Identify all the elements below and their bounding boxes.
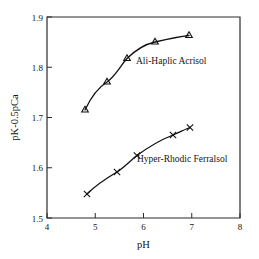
x-tick-label: 7 [190, 222, 195, 232]
y-axis-ticks [47, 17, 52, 218]
y-tick-label: 1.5 [32, 214, 44, 224]
axes-frame [47, 17, 240, 218]
series-label-ferralsol: Hyper-Rhodic Ferralsol [137, 154, 228, 164]
data-point-marker [114, 169, 120, 175]
data-point-marker [187, 124, 193, 130]
series-ali-haplic-acrisol [82, 32, 193, 112]
plot-canvas: 1.9 1.8 1.7 1.6 1.5 4 5 6 7 8 pH pK-0.5p… [0, 0, 259, 259]
y-tick-label: 1.6 [32, 163, 44, 173]
x-tick-label: 5 [93, 222, 98, 232]
x-tick-labels: 4 5 6 7 8 [45, 222, 243, 232]
series-line [85, 36, 189, 111]
y-tick-label: 1.9 [32, 13, 44, 23]
y-axis-title: pK-0.5pCa [9, 94, 20, 141]
y-tick-labels: 1.9 1.8 1.7 1.6 1.5 [32, 13, 44, 224]
x-axis-ticks [47, 213, 240, 218]
data-point-marker [84, 191, 90, 197]
series-label-acrisol: Ali-Haplic Acrisol [136, 56, 207, 66]
y-tick-label: 1.8 [32, 63, 44, 73]
data-point-marker [170, 132, 176, 138]
x-tick-label: 6 [141, 222, 146, 232]
x-tick-label: 4 [45, 222, 50, 232]
y-tick-label: 1.7 [32, 113, 44, 123]
chart-figure: 1.9 1.8 1.7 1.6 1.5 4 5 6 7 8 pH pK-0.5p… [0, 0, 259, 259]
data-point-marker [104, 78, 111, 84]
x-tick-label: 8 [238, 222, 243, 232]
data-point-marker [186, 32, 193, 38]
x-axis-title: pH [137, 239, 150, 250]
